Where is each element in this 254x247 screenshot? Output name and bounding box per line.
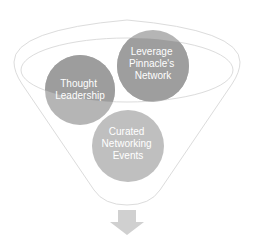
funnel-item-thought-leadership: Thought Leadership bbox=[45, 55, 115, 125]
funnel-diagram: Thought Leadership Leverage Pinnacle's N… bbox=[0, 0, 254, 247]
svg-text:Leverage Pinnacle's: Leverage Pinnacle's Network bbox=[129, 46, 177, 81]
funnel-item-leverage-network: Leverage Pinnacle's Network bbox=[117, 30, 189, 102]
funnel-item-curated-events: Curated Networking Events bbox=[92, 110, 164, 182]
arrow-down-icon bbox=[110, 210, 144, 235]
item-label: Thought Leadership bbox=[55, 78, 105, 101]
